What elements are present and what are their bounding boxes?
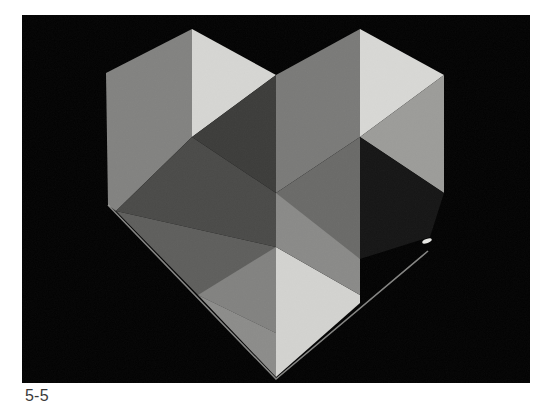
- figure-caption: 5-5: [25, 387, 49, 405]
- heart-cubes-image: [22, 15, 530, 383]
- figure-photo: [22, 15, 530, 383]
